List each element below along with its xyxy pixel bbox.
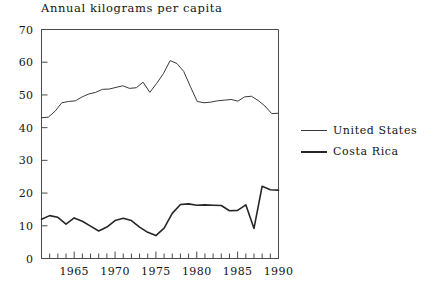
x-axis-tick-label: 1990	[264, 265, 294, 278]
x-axis-tick-label: 1965	[59, 265, 89, 278]
x-axis-tick-label: 1980	[182, 265, 212, 278]
axis-tick-labels: 010203040506070196519701975198019851990	[19, 24, 294, 278]
y-axis-tick-label: 0	[26, 253, 33, 266]
chart-figure: Annual kilograms per capita 010203040506…	[0, 0, 435, 286]
y-axis-tick-label: 40	[19, 122, 34, 135]
series-line	[42, 186, 279, 235]
y-axis-tick-label: 30	[19, 154, 34, 167]
plot-frame	[42, 30, 279, 259]
legend-swatch-united-states	[301, 130, 327, 131]
y-axis-tick-label: 10	[19, 220, 34, 233]
axes	[42, 30, 279, 259]
chart-plot-area: 010203040506070196519701975198019851990	[0, 0, 435, 286]
y-axis-tick-label: 50	[19, 89, 34, 102]
x-axis-tick-label: 1985	[223, 265, 253, 278]
legend-label-united-states: United States	[333, 124, 417, 137]
x-axis-tick-label: 1970	[100, 265, 130, 278]
axis-ticks	[42, 30, 279, 259]
legend-swatch-costa-rica	[301, 151, 327, 153]
x-axis-tick-label: 1975	[141, 265, 171, 278]
y-axis-tick-label: 60	[19, 56, 34, 69]
y-axis-tick-label: 70	[19, 24, 34, 37]
series-line	[42, 61, 279, 118]
y-axis-tick-label: 20	[19, 187, 34, 200]
legend-label-costa-rica: Costa Rica	[333, 145, 399, 158]
data-series	[42, 61, 279, 236]
